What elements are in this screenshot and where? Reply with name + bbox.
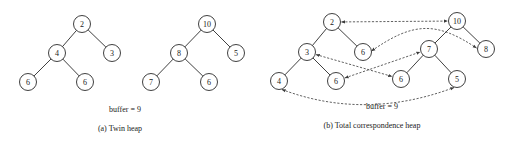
node-value: 4: [55, 49, 59, 58]
tree-edge: [88, 30, 106, 47]
heap-node: 7: [421, 41, 438, 58]
node-value: 5: [455, 75, 459, 84]
node-value: 6: [399, 75, 403, 84]
node-value: 3: [305, 48, 309, 57]
node-value: 7: [427, 45, 431, 54]
panel-labels: buffer = 9 (a) Twin heap buffer = 9 (b) …: [98, 102, 420, 133]
heap-node: 4: [49, 45, 66, 62]
heap-node: 3: [299, 44, 316, 61]
tree-edge: [185, 30, 201, 47]
caption-twin-heap: (a) Twin heap: [98, 124, 142, 133]
node-value: 8: [484, 45, 488, 54]
heap-node: 2: [74, 16, 91, 33]
heap-node: 2: [324, 14, 341, 31]
tree-edge: [435, 27, 451, 43]
heap-node: 6: [20, 74, 37, 91]
heap-node: 8: [478, 41, 495, 58]
heap-node: 6: [328, 73, 345, 90]
tree-edge: [463, 27, 480, 43]
heap-node: 4: [271, 73, 288, 90]
tree-edge: [338, 28, 357, 46]
tree-edge: [63, 59, 79, 76]
tree-edge: [435, 55, 451, 73]
heap-node: 5: [228, 45, 245, 62]
node-value: 7: [149, 78, 153, 87]
heap-node: 7: [143, 74, 160, 91]
node-value: 6: [207, 78, 211, 87]
node-value: 8: [177, 49, 181, 58]
tree-edge: [285, 58, 301, 75]
buffer-label-b: buffer = 9: [366, 102, 398, 111]
node-value: 6: [361, 48, 365, 57]
node-value: 4: [277, 77, 281, 86]
heap-node: 8: [171, 45, 188, 62]
tree-edge: [312, 29, 326, 46]
heap-node: 6: [77, 74, 94, 91]
node-value: 6: [26, 78, 30, 87]
heap-node: 6: [201, 74, 218, 91]
node-value: 3: [110, 49, 114, 58]
tree-edge: [213, 30, 230, 47]
buffer-label-a: buffer = 9: [109, 105, 141, 114]
tree-edges: [34, 27, 480, 76]
heap-node: 5: [449, 71, 466, 88]
heap-nodes: 2436610857623646107865: [20, 13, 495, 91]
node-value: 2: [80, 20, 84, 29]
node-value: 10: [203, 20, 211, 29]
heap-node: 10: [199, 16, 216, 33]
tree-edge: [407, 55, 423, 73]
heap-diagram: 2436610857623646107865 buffer = 9 (a) Tw…: [0, 0, 509, 145]
node-value: 10: [453, 17, 461, 26]
correspondence-arrow: [341, 21, 447, 22]
correspondence-links: [282, 21, 477, 105]
caption-total-correspondence-heap: (b) Total correspondence heap: [324, 121, 421, 130]
heap-node: 6: [393, 71, 410, 88]
node-value: 6: [83, 78, 87, 87]
tree-edge: [185, 59, 203, 76]
tree-edge: [157, 59, 173, 76]
node-value: 5: [234, 49, 238, 58]
heap-node: 3: [104, 45, 121, 62]
tree-edge: [63, 30, 77, 46]
tree-edge: [313, 58, 330, 75]
node-value: 2: [330, 18, 334, 27]
tree-edge: [34, 59, 51, 76]
heap-node: 10: [449, 13, 466, 30]
heap-node: 6: [355, 44, 372, 61]
node-value: 6: [334, 77, 338, 86]
